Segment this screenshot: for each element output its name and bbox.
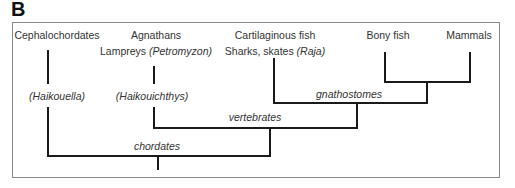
branch-agnathans-upper	[153, 66, 155, 84]
label-gnathostomes: gnathostomes	[316, 88, 382, 100]
lampreys-text: Lampreys	[100, 45, 149, 57]
branch-cephalochordates-lower	[47, 107, 49, 157]
label-cephalochordates: Cephalochordates	[14, 29, 99, 41]
label-lampreys: Lampreys (Petromyzon)	[100, 45, 212, 57]
branch-cephalochordates-upper	[47, 50, 49, 84]
root-stem	[157, 155, 159, 170]
node-chordates-bar	[47, 155, 271, 157]
node-vertebrates-bar	[153, 127, 358, 129]
stem-gnathostomes	[356, 102, 358, 129]
label-sharks-skates: Sharks, skates (Raja)	[225, 45, 325, 57]
stem-vertebrates	[269, 127, 271, 157]
label-haikouella: (Haikouella)	[29, 90, 85, 102]
stem-osteichthyes	[426, 81, 428, 104]
label-bony-fish: Bony fish	[366, 29, 409, 41]
branch-agnathans-lower	[153, 107, 155, 129]
raja-text: (Raja)	[297, 45, 326, 57]
branch-mammals	[469, 52, 471, 83]
sharks-skates-text: Sharks, skates	[225, 45, 297, 57]
petromyzon-text: (Petromyzon)	[149, 45, 212, 57]
label-chordates: chordates	[134, 140, 180, 152]
label-cartilaginous-fish: Cartilaginous fish	[235, 29, 316, 41]
label-agnathans: Agnathans	[131, 29, 181, 41]
node-gnathostomes-bar	[273, 102, 428, 104]
label-vertebrates: vertebrates	[229, 111, 282, 123]
panel-label: B	[11, 0, 25, 21]
label-mammals: Mammals	[446, 29, 492, 41]
label-haikouichthys: (Haikouichthys)	[116, 90, 188, 102]
branch-bony-fish	[384, 52, 386, 83]
branch-cartilaginous	[273, 58, 275, 104]
